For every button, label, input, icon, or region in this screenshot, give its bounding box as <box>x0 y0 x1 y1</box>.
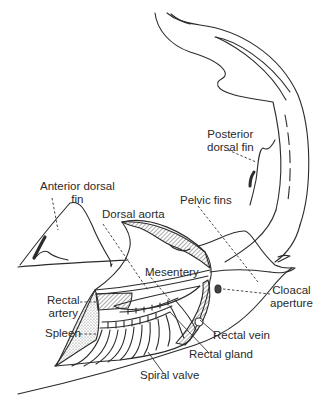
label-line: Anterior dorsal <box>40 180 115 193</box>
label-spiral-valve: Spiral valve <box>140 369 199 382</box>
label-mesentery: Mesentery <box>145 266 199 279</box>
label-rectal-gland: Rectal gland <box>189 348 253 361</box>
label-line: aperture <box>270 297 313 310</box>
label-anterior-dorsal-fin: Anterior dorsal fin <box>40 180 115 206</box>
shark-anatomy-diagram: Posterior dorsal fin Anterior dorsal fin… <box>0 0 322 404</box>
label-line: Cloacal <box>270 284 313 297</box>
label-pelvic-fins: Pelvic fins <box>180 194 232 207</box>
label-line: artery <box>47 307 80 320</box>
cloaca-region-outline <box>210 270 270 272</box>
label-line: Posterior <box>207 128 254 141</box>
label-cloacal-aperture: Cloacal aperture <box>270 284 313 310</box>
label-spleen: Spleen <box>45 327 81 340</box>
label-posterior-dorsal-fin: Posterior dorsal fin <box>207 128 254 154</box>
label-line: fin <box>40 193 115 206</box>
pelvic-fin <box>198 231 295 273</box>
label-rectal-vein: Rectal vein <box>213 329 270 342</box>
label-line: Rectal <box>47 294 80 307</box>
label-line: dorsal fin <box>207 141 254 154</box>
label-rectal-artery: Rectal artery <box>47 294 80 320</box>
cloacal-aperture-shape <box>215 285 221 293</box>
label-dorsal-aorta: Dorsal aorta <box>102 208 165 221</box>
posterior-dorsal-fin <box>250 140 275 205</box>
